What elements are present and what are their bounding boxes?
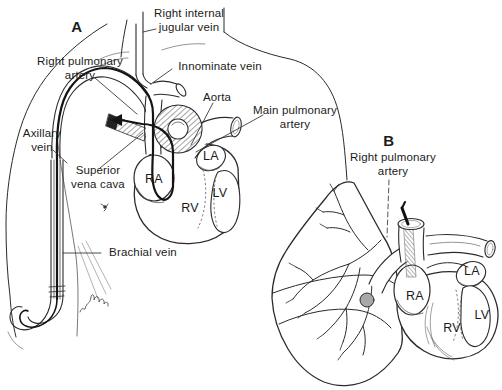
label-aorta: Aorta [203, 91, 231, 105]
medical-figure: A Right internal jugular vein Right pulm… [0, 0, 502, 390]
panel-b-illustration [272, 180, 498, 386]
label-superior-vena-cava: Superior vena cava [71, 164, 125, 191]
jugular-vein-a [136, 12, 151, 88]
innominate-vein-tube [153, 81, 188, 97]
label-right-pulmonary-artery-a: Right pulmonary artery [37, 55, 123, 82]
label-lv-a: LV [213, 187, 228, 200]
label-la-a: LA [203, 150, 219, 163]
catheter-balloon-b [360, 293, 374, 307]
label-ra-a: RA [145, 173, 163, 186]
label-rv-b: RV [443, 322, 461, 335]
label-lv-b: LV [475, 309, 490, 322]
artist-signature [80, 295, 108, 312]
label-right-internal-jugular-vein: Right internal jugular vein [154, 7, 224, 34]
axillary-vein-bundle [10, 66, 153, 330]
label-innominate-vein: Innominate vein [178, 60, 261, 74]
label-ra-b: RA [406, 290, 424, 303]
right-pulmonary-artery-arc-b [426, 235, 496, 259]
label-rv-a: RV [181, 202, 199, 215]
label-la-b: LA [464, 265, 480, 278]
nipple-mark [101, 204, 108, 211]
label-axillary-vein: Axillary vein [23, 127, 61, 154]
right-pulmonary-artery-band-a [106, 114, 148, 141]
panel-a-label: A [71, 20, 82, 34]
label-brachial-vein: Brachial vein [109, 246, 177, 260]
panel-b-label: B [383, 134, 394, 148]
arm-sketch-lines [78, 241, 111, 299]
leader-line-b [387, 180, 389, 237]
label-right-pulmonary-artery-b: Right pulmonary artery [350, 151, 436, 178]
label-main-pulmonary-artery: Main pulmonary artery [253, 104, 337, 131]
